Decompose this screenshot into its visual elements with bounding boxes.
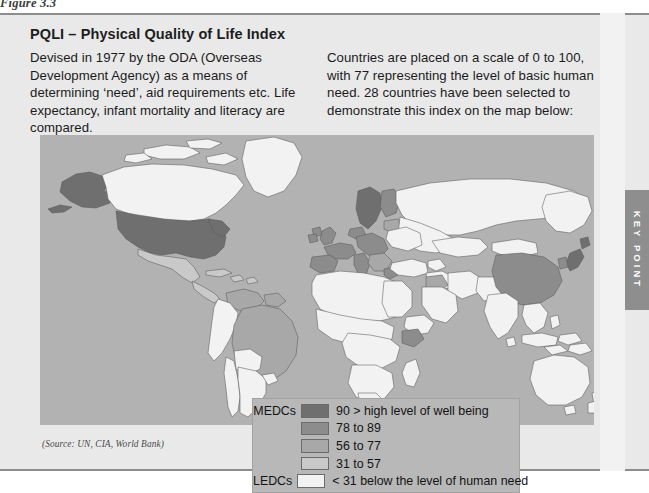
description-left-text: Devised in 1977 by the ODA (Overseas Dev… [30,49,320,137]
description-left-column: Devised in 1977 by the ODA (Overseas Dev… [30,49,320,137]
legend-row: LEDCs < 31 below the level of human need [253,472,519,490]
page-right-gutter [600,13,625,471]
key-point-tab-label: KEY POINT [632,211,643,289]
legend-category-medcs: MEDCs [253,404,301,418]
description-right-column: Countries are placed on a scale of 0 to … [327,49,605,119]
legend-row: 56 to 77 [253,437,519,455]
legend-swatch-31-57 [301,457,329,471]
legend-label-31-57: 31 to 57 [336,457,381,471]
legend-swatch-90-plus [301,404,329,418]
map-legend: MEDCs 90 > high level of well being 78 t… [252,398,520,493]
legend-row: 31 to 57 [253,455,519,473]
legend-category-ledcs: LEDCs [253,474,297,488]
world-map: .c9{fill:#6f6f6f;} /* 90+ */ .c8{fill:#8… [40,135,594,425]
legend-row: 78 to 89 [253,420,519,438]
page-title: PQLI – Physical Quality of Life Index [30,26,285,42]
key-point-panel: PQLI – Physical Quality of Life Index De… [0,13,649,471]
source-citation: (Source: UN, CIA, World Bank) [42,439,164,449]
legend-swatch-56-77 [301,439,329,453]
description-right-text: Countries are placed on a scale of 0 to … [327,49,605,119]
legend-label-78-89: 78 to 89 [336,421,381,435]
legend-swatch-78-89 [301,422,329,436]
legend-label-90-plus: 90 > high level of well being [336,404,489,418]
legend-label-under-31: < 31 below the level of human need [332,474,528,488]
legend-swatch-under-31 [297,474,325,488]
world-map-svg: .c9{fill:#6f6f6f;} /* 90+ */ .c8{fill:#8… [40,135,594,425]
key-point-tab: KEY POINT [625,190,649,310]
figure-caption: Figure 3.3 [0,0,56,11]
legend-label-56-77: 56 to 77 [336,439,381,453]
legend-row: MEDCs 90 > high level of well being [253,402,519,420]
panel-content: PQLI – Physical Quality of Life Index De… [0,15,649,469]
